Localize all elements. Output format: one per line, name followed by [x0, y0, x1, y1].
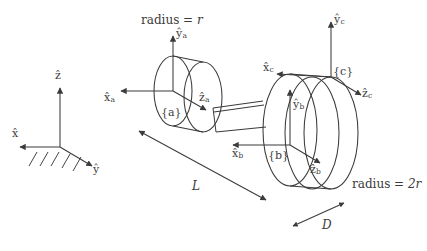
frame-b-x-axis-label: x̂b	[232, 148, 243, 160]
depth-dimension-arrow	[293, 203, 344, 226]
shaft-bottom-edge	[216, 127, 266, 132]
frame-a-x-axis-label: x̂a	[104, 92, 115, 104]
frame-a-z-axis-label: ẑa	[199, 92, 210, 104]
frame-b-z-axis-label: ẑb	[310, 164, 321, 176]
radius-small-annotation: radius = r	[141, 14, 203, 26]
frame-c-x-axis-label: x̂c	[263, 62, 274, 74]
world-frame-axes	[20, 88, 92, 166]
world-z-axis-label: ẑ	[55, 70, 61, 81]
frame-b-y-axis-label: ŷb	[293, 99, 304, 111]
frame-a-y-axis-label: ŷa	[176, 28, 187, 40]
shaft-top-edge-1	[213, 101, 263, 108]
frame-c-y-axis-label: ŷc	[334, 14, 345, 26]
length-dimension-arrow	[139, 131, 266, 200]
frame-c-z-axis-label: ẑc	[362, 88, 372, 100]
cylinder-a	[154, 56, 222, 132]
cylinder-a-top-edge	[173, 56, 203, 62]
frame-a-axes	[121, 36, 206, 110]
frame-c-x-axis	[277, 74, 331, 77]
diagram-canvas	[0, 0, 427, 251]
length-dimension-label: L	[192, 180, 200, 192]
frame-c-z-axis	[331, 77, 361, 95]
frame-b-tag: {b}	[268, 150, 289, 161]
radius-large-annotation: radius = 2r	[352, 178, 421, 190]
frame-c-axes	[277, 22, 361, 95]
frame-a-tag: {a}	[161, 107, 182, 118]
frame-c-tag: {c}	[333, 66, 353, 77]
world-y-axis-label: ŷ	[93, 164, 99, 175]
world-x-axis-label: x̂	[12, 128, 18, 139]
technical-diagram: ẑ x̂ ŷ ŷa x̂a ẑa {a} ŷb x̂b ẑb {b} ŷc x̂…	[0, 0, 427, 251]
cylinder-a-bottom-edge	[173, 126, 203, 132]
depth-dimension-label: D	[322, 219, 332, 231]
